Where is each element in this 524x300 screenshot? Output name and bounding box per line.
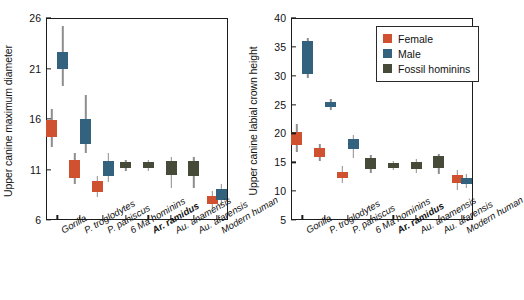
- legend-item-fossil: Fossil hominins: [383, 61, 470, 76]
- y-tick-mark: [291, 104, 296, 105]
- x-tick-mark: [125, 215, 126, 220]
- x-tick-mark: [393, 215, 394, 220]
- y-tick-mark: [46, 17, 51, 18]
- y-tick-mark: [291, 75, 296, 76]
- x-tick-mark: [324, 215, 325, 220]
- y-tick-label: 11: [30, 164, 46, 176]
- box-quartile-rect: [291, 132, 302, 145]
- legend-swatch-fossil: [383, 64, 392, 73]
- x-tick-mark: [102, 215, 103, 220]
- box-plot-male: [216, 18, 227, 220]
- legend: FemaleMaleFossil hominins: [376, 26, 479, 82]
- box-plot-female: [314, 18, 325, 220]
- box-quartile-rect: [69, 160, 80, 177]
- y-tick-mark: [291, 162, 296, 163]
- y-tick-mark: [291, 219, 296, 220]
- y-tick-label: 25: [274, 99, 291, 111]
- box-quartile-rect: [337, 172, 348, 179]
- y-tick-mark: [46, 219, 51, 220]
- box-quartile-rect: [302, 41, 313, 74]
- box-quartile-rect: [461, 178, 472, 184]
- y-tick-label: 10: [274, 185, 291, 197]
- box-plot-fossil: [120, 18, 131, 220]
- x-tick-mark: [148, 215, 149, 220]
- legend-item-male: Male: [383, 46, 470, 61]
- box-quartile-rect: [57, 52, 68, 69]
- y-tick-label: 35: [274, 41, 291, 53]
- x-tick-mark: [438, 215, 439, 220]
- box-quartile-rect: [166, 161, 177, 174]
- x-tick-mark: [193, 215, 194, 220]
- plot-area-left: 611162126: [46, 18, 228, 220]
- box-quartile-rect: [188, 161, 199, 175]
- box-plot-female: [69, 18, 80, 220]
- box-plot-male: [57, 18, 68, 220]
- box-quartile-rect: [46, 120, 57, 137]
- box-quartile-rect: [143, 162, 154, 168]
- x-tick-mark: [79, 215, 80, 220]
- x-tick-mark: [57, 215, 58, 220]
- x-tick-mark: [170, 215, 171, 220]
- y-tick-label: 20: [274, 127, 291, 139]
- y-tick-label: 5: [280, 214, 291, 226]
- y-tick-mark: [291, 46, 296, 47]
- box-quartile-rect: [365, 158, 376, 168]
- y-tick-label: 40: [274, 12, 291, 24]
- legend-item-female: Female: [383, 31, 470, 46]
- box-plot-male: [348, 18, 359, 220]
- y-tick-mark: [291, 190, 296, 191]
- box-plot-male: [302, 18, 313, 220]
- y-tick-label: 15: [274, 156, 291, 168]
- box-quartile-rect: [103, 161, 114, 175]
- y-tick-label: 6: [35, 214, 46, 226]
- box-quartile-rect: [433, 156, 444, 168]
- y-tick-label: 16: [29, 113, 46, 125]
- x-tick-mark: [347, 215, 348, 220]
- box-plot-female: [92, 18, 103, 220]
- box-plot-female: [337, 18, 348, 220]
- x-tick-mark: [370, 215, 371, 220]
- box-plot-fossil: [188, 18, 199, 220]
- y-tick-mark: [46, 169, 51, 170]
- box-quartile-rect: [348, 139, 359, 149]
- panel-upper-canine-labial-crown-height: Upper canine labial crown height 5101520…: [245, 0, 490, 300]
- panel-upper-canine-maximum-diameter: Upper canine maximum diameter 611162126 …: [0, 0, 245, 300]
- box-quartile-rect: [388, 163, 399, 168]
- y-tick-label: 26: [29, 12, 46, 24]
- box-plot-male: [325, 18, 336, 220]
- box-quartile-rect: [314, 148, 325, 156]
- box-quartile-rect: [411, 162, 422, 169]
- y-axis-title-right: Upper canine labial crown height: [247, 18, 261, 224]
- y-tick-label: 30: [274, 70, 291, 82]
- legend-swatch-male: [383, 49, 392, 58]
- x-tick-mark: [415, 215, 416, 220]
- box-quartile-rect: [92, 181, 103, 192]
- box-plot-fossil: [365, 18, 376, 220]
- legend-label-fossil: Fossil hominins: [398, 63, 470, 75]
- box-plot-male: [103, 18, 114, 220]
- box-plot-fossil: [143, 18, 154, 220]
- x-tick-mark: [216, 215, 217, 220]
- box-plot-male: [80, 18, 91, 220]
- x-tick-mark: [461, 215, 462, 220]
- box-quartile-rect: [216, 189, 227, 200]
- legend-label-male: Male: [398, 48, 421, 60]
- box-quartile-rect: [80, 119, 91, 144]
- legend-swatch-female: [383, 34, 392, 43]
- x-tick-mark: [302, 215, 303, 220]
- y-tick-mark: [46, 118, 51, 119]
- y-axis-title-left: Upper canine maximum diameter: [2, 18, 16, 224]
- box-quartile-rect: [120, 162, 131, 168]
- y-tick-mark: [291, 133, 296, 134]
- box-quartile-rect: [325, 102, 336, 107]
- y-tick-mark: [291, 17, 296, 18]
- legend-label-female: Female: [398, 33, 433, 45]
- y-tick-mark: [46, 68, 51, 69]
- y-tick-label: 21: [29, 63, 46, 75]
- box-plot-fossil: [166, 18, 177, 220]
